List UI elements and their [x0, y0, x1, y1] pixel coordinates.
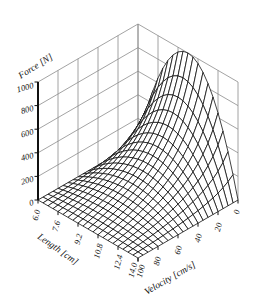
- left-wall-gridline: [38, 48, 138, 106]
- x-tick-label: 7.6: [50, 219, 63, 233]
- y-tick-label: 20: [212, 221, 224, 233]
- x-tick-label: 6.0: [30, 208, 43, 222]
- z-tick-labels: 0 200 400 600 800 1000: [16, 80, 36, 208]
- y-tick-label: 40: [192, 232, 204, 244]
- left-wall-gridline: [38, 95, 138, 153]
- z-tick-label: 400: [20, 150, 36, 163]
- z-tick-label: 600: [20, 126, 36, 139]
- surface-plot-figure: Force [N] 0 200 400 600 800 1000 6.0 7.6…: [0, 0, 253, 307]
- z-tick-label: 800: [20, 103, 36, 116]
- z-tick-label: 0: [28, 197, 35, 208]
- left-wall-gridline: [38, 24, 138, 82]
- z-tick-label: 200: [20, 173, 36, 186]
- y-axis-title: Velocity [cm/s]: [143, 259, 198, 296]
- y-tick-label: 100: [134, 263, 147, 279]
- x-tick-label: 10.8: [91, 242, 105, 260]
- x-tick-label: 12.4: [111, 253, 125, 271]
- surface-plot: Force [N] 0 200 400 600 800 1000 6.0 7.6…: [0, 0, 253, 307]
- y-tick-label: 0: [231, 208, 242, 215]
- y-tick-label: 60: [172, 244, 184, 256]
- x-tick-label: 9.2: [72, 232, 85, 246]
- z-tick-label: 1000: [16, 80, 36, 94]
- z-axis-title: Force [N]: [16, 52, 55, 82]
- y-tick-label: 80: [151, 255, 163, 267]
- left-wall-gridline: [38, 71, 138, 129]
